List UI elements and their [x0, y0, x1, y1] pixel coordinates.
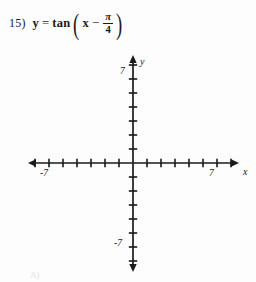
y-axis-label: y — [140, 56, 144, 67]
worksheet-page: 15) y = tan ( x − π 4 ) — [0, 0, 256, 282]
y-axis-negative-tick-label: -7 — [114, 238, 122, 248]
x-axis-label: x — [243, 166, 247, 177]
coordinate-plane: y x 7 -7 7 -7 — [0, 0, 256, 282]
x-axis-right-arrow — [231, 159, 239, 166]
x-axis-negative-tick-label: -7 — [40, 168, 48, 178]
footer-partial-mark: A) — [30, 270, 40, 280]
axes-svg — [0, 0, 256, 282]
y-axis-positive-tick-label: 7 — [120, 66, 125, 76]
axis-lines — [30, 57, 237, 270]
y-axis-down-arrow — [129, 264, 136, 272]
y-axis-up-arrow — [129, 55, 136, 63]
x-axis-positive-tick-label: 7 — [209, 168, 214, 178]
